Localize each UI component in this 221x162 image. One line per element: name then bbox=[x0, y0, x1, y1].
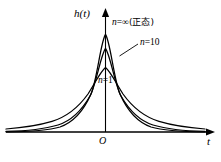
origin-label: O bbox=[99, 136, 106, 146]
y-axis-label-paren-close: ) bbox=[86, 7, 90, 19]
series-label-n-1-value: =1 bbox=[103, 75, 113, 85]
t-distribution-density-chart: h(t) t O n=∞(正态) n=10 n=1 bbox=[0, 0, 221, 162]
series-label-n-1: n=1 bbox=[98, 76, 113, 86]
series-label-n-infinity: n=∞(正态) bbox=[112, 18, 154, 28]
series-label-n-10: n=10 bbox=[140, 38, 160, 48]
y-axis-label: h(t) bbox=[74, 8, 90, 19]
series-label-n-10-value: =10 bbox=[145, 37, 160, 47]
series-label-n-infinity-value: =∞ bbox=[117, 17, 129, 27]
y-axis-arrowhead bbox=[102, 8, 109, 17]
leader-line-n-10 bbox=[120, 44, 139, 56]
series-label-n-infinity-cjk: (正态) bbox=[129, 17, 154, 27]
x-axis-label: t bbox=[207, 136, 210, 147]
